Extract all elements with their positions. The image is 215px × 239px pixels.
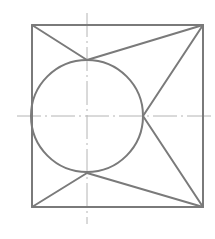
circle-top-to-top-right-corner-line <box>87 25 203 60</box>
top-left-corner-to-circle-top-line <box>32 25 87 60</box>
circle-bottom-to-bottom-left-corner-line <box>32 173 87 207</box>
geometry-diagram <box>0 0 215 239</box>
circle-right-to-bottom-right-corner-line <box>143 116 203 207</box>
bottom-right-corner-to-circle-bottom-line <box>87 173 203 207</box>
top-right-corner-to-circle-right-line <box>143 25 203 116</box>
